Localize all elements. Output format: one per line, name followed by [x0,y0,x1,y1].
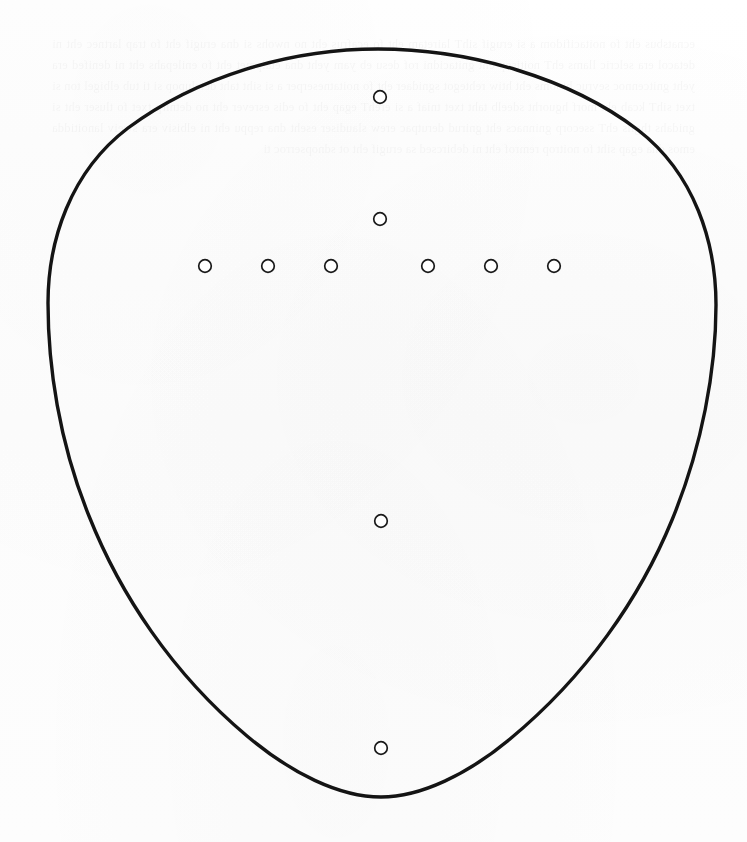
marker-lower-mid-marker [375,515,388,528]
scanned-page: ecnatsbus eht fo noitacifidom a si erugi… [0,0,747,842]
marker-row-4-marker [422,260,435,273]
marker-bottom-marker [375,742,388,755]
marker-row-6-marker [548,260,561,273]
marker-row-3-marker [325,260,338,273]
marker-upper-mid-marker [374,213,387,226]
marker-row-2-marker [262,260,275,273]
marker-row-1-marker [199,260,212,273]
marker-top-marker [374,91,387,104]
marker-row-5-marker [485,260,498,273]
template-outline-path [48,49,716,797]
template-figure [0,0,747,842]
marker-circle-group [199,91,561,755]
